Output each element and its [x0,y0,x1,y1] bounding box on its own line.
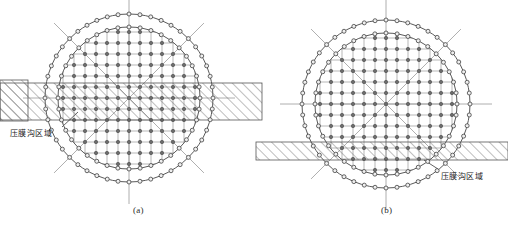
mesh-node [340,58,343,61]
mesh-node [384,113,387,116]
mesh-node [362,113,365,116]
mesh-node [329,69,332,72]
inner-boundary-node [416,165,420,169]
mesh-node [417,80,420,83]
outer-boundary-node [76,29,80,33]
mesh-node [116,162,119,165]
outer-boundary-node [373,185,377,189]
outer-boundary-node [465,80,469,84]
inner-boundary-node [177,46,181,50]
inner-boundary-node [362,34,366,38]
mesh-node [417,135,420,138]
outer-boundary-node [46,74,50,78]
mesh-node [439,102,442,105]
inner-boundary-node [195,74,199,78]
mesh-node [160,41,163,44]
mesh-node [362,80,365,83]
outer-boundary-node [317,51,321,55]
mesh-node [127,41,130,44]
outer-boundary-node [205,128,209,132]
mesh-node [351,113,354,116]
inner-boundary-node [452,80,456,84]
outer-boundary-node [138,179,142,183]
mesh-node [406,124,409,127]
mesh-node [329,80,332,83]
inner-boundary-node [316,80,320,84]
outer-boundary-node [149,177,153,181]
inner-boundary-node [373,32,377,36]
outer-boundary-node [169,169,173,173]
mesh-node [384,80,387,83]
inner-boundary-node [334,152,338,156]
mesh-node [149,63,152,66]
outer-boundary-node [333,35,337,39]
mesh-node [127,162,130,165]
figure-canvas: (a) (b) 压膜沟区域 压膜沟区域 [0,0,508,226]
inner-boundary-node [334,52,338,56]
mesh-node [149,52,152,55]
mesh-node [417,113,420,116]
mesh-node [373,135,376,138]
inner-boundary-node [190,64,194,68]
outer-boundary-node [303,124,307,128]
mesh-node [127,151,130,154]
mesh-node [83,74,86,77]
mesh-node [395,69,398,72]
mesh-node [94,151,97,154]
outer-boundary-node [443,43,447,47]
outer-boundary-node [194,45,198,49]
mesh-node [105,74,108,77]
mesh-node [138,162,141,165]
inner-boundary-node [441,144,445,148]
mesh-node [138,30,141,33]
outer-boundary-node [44,85,48,89]
mesh-node [373,113,376,116]
mesh-node [160,74,163,77]
mesh-node [351,69,354,72]
mesh-node [439,135,442,138]
outer-boundary-node [43,96,47,100]
mesh-node [395,36,398,39]
mesh-node [450,91,453,94]
inner-boundary-node [313,102,317,106]
mesh-node [340,113,343,116]
mesh-node [450,102,453,105]
mesh-node [384,58,387,61]
inner-boundary-node [197,85,201,89]
mesh-node [329,113,332,116]
outer-boundary-node [116,179,120,183]
mesh-node [116,52,119,55]
mesh-node [406,80,409,83]
outer-boundary-node [465,124,469,128]
mesh-figure-svg [0,0,508,226]
mesh-node [138,129,141,132]
mesh-node [351,102,354,105]
mesh-node [406,91,409,94]
mesh-node [439,69,442,72]
outer-boundary-node [451,51,455,55]
outer-boundary-node [194,147,198,151]
outer-boundary-node [395,19,399,23]
outer-boundary-node [384,18,388,22]
mesh-node [149,140,152,143]
mesh-node [351,47,354,50]
mesh-node [395,168,398,171]
mesh-node [105,63,108,66]
inner-boundary-node [177,146,181,150]
panel-a [0,0,262,204]
mesh-node [428,135,431,138]
mesh-node [428,113,431,116]
mesh-node [395,58,398,61]
outer-boundary-node [306,70,310,74]
mesh-node [83,52,86,55]
mesh-node [417,124,420,127]
inner-boundary-node [116,26,120,30]
outer-boundary-node [317,153,321,157]
mesh-node [160,151,163,154]
mesh-node [160,63,163,66]
mesh-node [428,80,431,83]
outer-boundary-node [85,23,89,27]
mesh-node [373,102,376,105]
outer-boundary-node [60,147,64,151]
outer-boundary-node [352,24,356,28]
